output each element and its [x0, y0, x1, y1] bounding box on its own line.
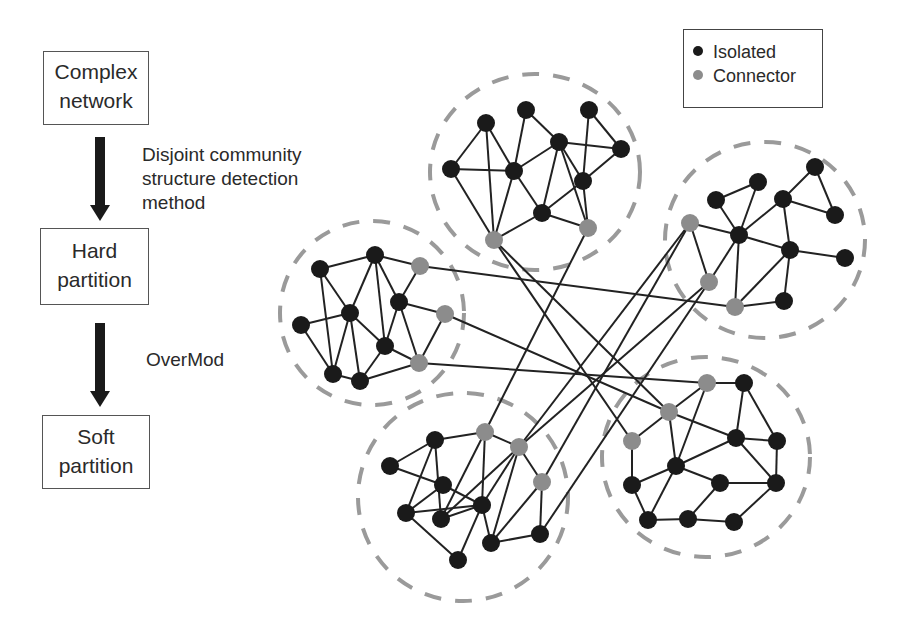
- isolated-node: [806, 158, 824, 176]
- graph-edge: [350, 313, 360, 381]
- graph-nodes: [292, 101, 854, 569]
- isolated-node: [707, 191, 725, 209]
- graph-edge: [494, 240, 632, 441]
- isolated-node: [727, 429, 745, 447]
- graph-edge: [669, 412, 736, 438]
- isolated-node: [730, 226, 748, 244]
- isolated-node: [531, 525, 549, 543]
- graph-edge: [542, 223, 690, 482]
- connector-node: [623, 432, 641, 450]
- graph-edge: [360, 363, 419, 381]
- graph-edge: [333, 313, 350, 374]
- isolated-node: [376, 337, 394, 355]
- legend-item-isolated: Isolated: [693, 42, 776, 62]
- isolated-node: [711, 474, 729, 492]
- isolated-node: [836, 249, 854, 267]
- legend: Isolated Connector: [683, 29, 823, 108]
- community-outlines: [280, 74, 865, 601]
- isolated-node: [397, 504, 415, 522]
- connector-node: [533, 473, 551, 491]
- isolated-node: [781, 241, 799, 259]
- isolated-node: [749, 173, 767, 191]
- isolated-node: [767, 474, 785, 492]
- isolated-node: [580, 101, 598, 119]
- graph-edge: [744, 383, 777, 441]
- legend-label: Connector: [713, 66, 796, 86]
- isolated-node: [735, 374, 753, 392]
- graph-edge: [375, 255, 385, 346]
- connector-node: [681, 214, 699, 232]
- isolated-node: [775, 292, 793, 310]
- graph-edge: [491, 447, 519, 543]
- connector-node: [485, 231, 503, 249]
- connector-node: [410, 354, 428, 372]
- isolated-node: [482, 534, 500, 552]
- isolated-node: [774, 190, 792, 208]
- graph-edge: [559, 142, 621, 149]
- connector-node: [700, 273, 718, 291]
- graph-edge: [350, 255, 375, 313]
- isolated-node: [341, 304, 359, 322]
- isolated-node: [324, 365, 342, 383]
- connector-node: [579, 219, 597, 237]
- graph-edge: [690, 223, 709, 282]
- isolated-node: [679, 510, 697, 528]
- connector-node: [726, 298, 744, 316]
- isolated-node: [505, 162, 523, 180]
- isolated-node: [434, 476, 452, 494]
- isolated-node-icon: [693, 46, 703, 56]
- isolated-node: [292, 316, 310, 334]
- isolated-node: [426, 431, 444, 449]
- graph-edge: [451, 169, 494, 240]
- graph-edge: [486, 123, 494, 240]
- connector-node: [436, 305, 454, 323]
- legend-label: Isolated: [713, 42, 776, 62]
- graph-edge: [458, 505, 482, 560]
- isolated-node: [639, 511, 657, 529]
- connector-node: [510, 438, 528, 456]
- isolated-node: [381, 457, 399, 475]
- connector-node: [698, 374, 716, 392]
- graph-edge: [482, 432, 485, 505]
- isolated-node: [449, 551, 467, 569]
- isolated-node: [533, 204, 551, 222]
- isolated-node: [550, 133, 568, 151]
- isolated-node: [612, 140, 630, 158]
- isolated-node: [667, 457, 685, 475]
- isolated-node: [390, 293, 408, 311]
- graph-edge: [648, 466, 676, 520]
- isolated-node: [311, 260, 329, 278]
- graph-edge: [735, 235, 739, 307]
- graph-edge: [406, 513, 458, 560]
- connector-node: [660, 403, 678, 421]
- graph-edge: [451, 169, 514, 171]
- connector-node: [476, 423, 494, 441]
- isolated-node: [826, 206, 844, 224]
- isolated-node: [351, 372, 369, 390]
- isolated-node: [442, 160, 460, 178]
- isolated-node: [574, 172, 592, 190]
- legend-item-connector: Connector: [693, 66, 796, 86]
- isolated-node: [473, 496, 491, 514]
- isolated-node: [768, 432, 786, 450]
- isolated-node: [366, 246, 384, 264]
- graph-edge: [514, 110, 526, 171]
- community-top-outline: [430, 74, 640, 270]
- isolated-node: [432, 510, 450, 528]
- connector-node-icon: [693, 70, 703, 80]
- isolated-node: [725, 513, 743, 531]
- connector-node: [411, 257, 429, 275]
- isolated-node: [623, 476, 641, 494]
- isolated-node: [477, 114, 495, 132]
- graph-edge: [494, 240, 669, 412]
- isolated-node: [517, 101, 535, 119]
